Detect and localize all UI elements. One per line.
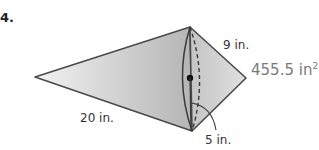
surface-area-exponent: 2 [312,61,318,71]
right-slant-label: 9 in. [223,38,249,52]
left-slant-label: 20 in. [80,111,114,125]
surface-area-label: 455.5 in2 [251,61,318,79]
radius-label: 5 in. [205,133,231,147]
surface-area-value: 455.5 in [251,61,312,79]
